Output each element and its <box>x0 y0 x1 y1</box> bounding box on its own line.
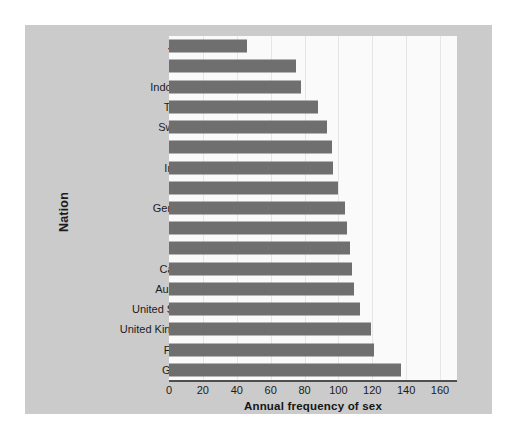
x-tick-label: 60 <box>265 384 277 396</box>
bar <box>169 282 354 295</box>
bar <box>169 40 247 53</box>
bar-row: Italy <box>25 238 492 258</box>
x-tick-label: 160 <box>431 384 449 396</box>
x-tick-label: 120 <box>363 384 381 396</box>
bar-row: Japan <box>25 36 492 56</box>
bar <box>169 60 296 73</box>
bar <box>169 161 333 174</box>
bar <box>169 121 327 134</box>
x-tick-label: 140 <box>397 384 415 396</box>
chart-panel: Nation JapanIndiaIndonesiaTaiwanSwedenCh… <box>25 25 492 414</box>
bar-row: Australia <box>25 279 492 299</box>
bar <box>169 303 360 316</box>
bar <box>169 222 347 235</box>
bar <box>169 100 318 113</box>
x-tick-label: 20 <box>197 384 209 396</box>
x-tick-label: 100 <box>329 384 347 396</box>
bar-row: Israel <box>25 178 492 198</box>
bar-row: Canada <box>25 259 492 279</box>
bar <box>169 80 301 93</box>
x-tick-label: 0 <box>166 384 172 396</box>
bar <box>169 262 352 275</box>
chart-figure: Nation JapanIndiaIndonesiaTaiwanSwedenCh… <box>0 0 511 440</box>
bar-row: France <box>25 340 492 360</box>
bar-row: Taiwan <box>25 97 492 117</box>
bar-row: Germany <box>25 198 492 218</box>
x-tick-label: 80 <box>298 384 310 396</box>
bar-row: Indonesia <box>25 76 492 96</box>
bar-row: United Kingdom <box>25 319 492 339</box>
bar <box>169 242 350 255</box>
x-axis-line <box>169 380 457 382</box>
bar-row: Ireland <box>25 157 492 177</box>
bar <box>169 363 401 376</box>
bar <box>169 141 332 154</box>
bar <box>169 181 338 194</box>
bar-row: Sweden <box>25 117 492 137</box>
bar-row: Greece <box>25 360 492 380</box>
x-tick-label: 40 <box>231 384 243 396</box>
bar <box>169 343 374 356</box>
bar-row: India <box>25 56 492 76</box>
bar-row: United States <box>25 299 492 319</box>
x-axis-title: Annual frequency of sex <box>169 400 457 412</box>
bar <box>169 201 345 214</box>
bar <box>169 323 371 336</box>
bar-row: Spain <box>25 218 492 238</box>
bar-row: China <box>25 137 492 157</box>
